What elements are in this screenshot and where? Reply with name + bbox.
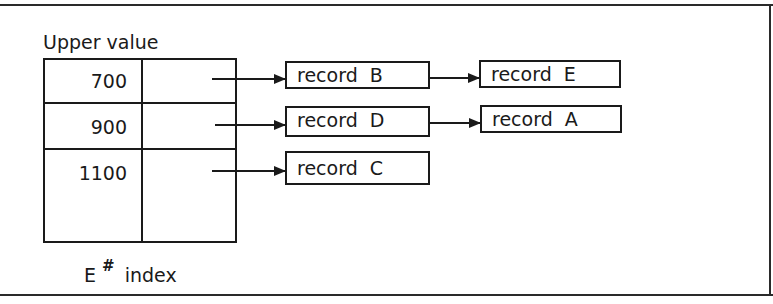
index-caption: E# index: [84, 263, 177, 285]
record-box: record D: [285, 106, 430, 137]
upper-value-cell: 700: [91, 72, 127, 91]
upper-value-cell: 1100: [79, 164, 127, 183]
upper-value-label: Upper value: [43, 33, 158, 52]
top-border: [0, 4, 773, 6]
right-border: [769, 4, 771, 296]
pointer-arrow: [430, 122, 480, 124]
row-divider: [45, 148, 235, 150]
pointer-arrow: [430, 77, 479, 79]
pointer-arrow: [215, 124, 285, 126]
index-caption-superscript: #: [102, 257, 115, 275]
pointer-arrow: [212, 170, 285, 172]
pointer-arrow: [212, 78, 285, 80]
row-divider: [45, 102, 235, 104]
record-box: record B: [285, 61, 430, 89]
index-caption-main: E: [84, 264, 96, 286]
record-box: record A: [480, 105, 622, 133]
index-table: 700 900 1100: [43, 58, 237, 243]
bottom-border: [0, 294, 773, 296]
column-divider: [141, 60, 143, 241]
index-caption-rest: index: [125, 264, 177, 286]
upper-value-cell: 900: [91, 118, 127, 137]
record-box: record E: [479, 60, 621, 88]
record-box: record C: [285, 151, 430, 185]
